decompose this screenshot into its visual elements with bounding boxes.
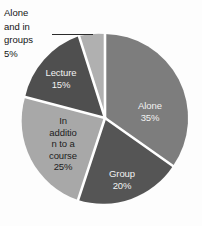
- pie-label-alone-and-in-groups: Alone and in groups 5%: [4, 6, 56, 60]
- pie-label-alone: Alone 35%: [124, 100, 176, 123]
- pie-label-lecture: Lecture 15%: [36, 67, 86, 90]
- pie-chart-screenshot: Alone and in groups 5% Alone 35% Group 2…: [0, 0, 202, 226]
- pie-label-in-addition-to-a-course: In additio n to a course 25%: [40, 115, 86, 173]
- pie-label-group: Group 20%: [98, 168, 146, 191]
